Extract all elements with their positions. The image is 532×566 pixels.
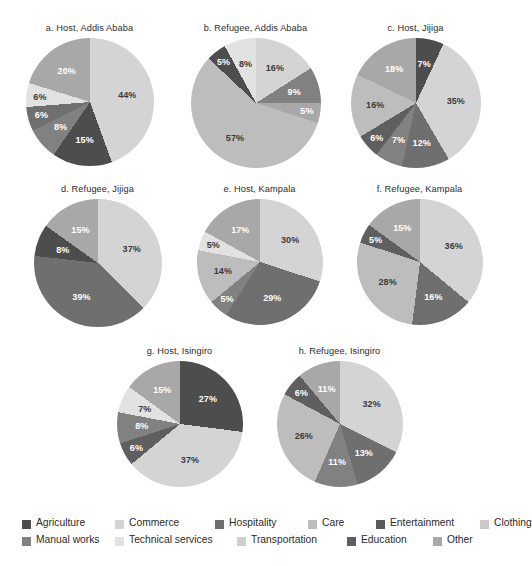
pie-chart-c: c. Host, Jijiga7%35%12%7%6%16%18% bbox=[332, 22, 499, 168]
slice-label-g-2: 37% bbox=[181, 455, 199, 465]
slice-label-f-5: 15% bbox=[393, 223, 411, 233]
slice-label-a-1: 44% bbox=[118, 90, 136, 100]
legend-item-manual-works[interactable]: Manual works bbox=[22, 531, 115, 548]
slice-label-c-6: 16% bbox=[366, 100, 384, 110]
slice-label-h-5: 6% bbox=[295, 388, 308, 398]
slice-label-d-1: 37% bbox=[123, 244, 141, 254]
slice-label-d-4: 15% bbox=[71, 225, 89, 235]
chart-title-c: c. Host, Jijiga bbox=[332, 22, 499, 34]
slice-label-g-5: 7% bbox=[138, 404, 151, 414]
pie-slices-b bbox=[191, 38, 321, 168]
slice-label-h-4: 26% bbox=[295, 431, 313, 441]
slice-label-c-2: 35% bbox=[447, 96, 465, 106]
legend-label-transportation: Transportation bbox=[251, 531, 317, 548]
pie-body-g: 27%37%6%8%7%15% bbox=[117, 361, 243, 487]
slice-label-g-1: 27% bbox=[199, 394, 217, 404]
chart-title-b: b. Refugee, Addis Ababa bbox=[172, 22, 339, 34]
legend-swatch-icon-hospitality bbox=[215, 520, 224, 529]
legend-item-education[interactable]: Education bbox=[347, 531, 433, 548]
legend-item-agriculture[interactable]: Agriculture bbox=[22, 514, 115, 531]
legend-label-other: Other bbox=[447, 531, 473, 548]
legend-swatch-icon-entertainment bbox=[376, 520, 385, 529]
pie-body-f: 36%16%28%5%15% bbox=[357, 199, 483, 325]
pie-body-h: 32%13%11%26%6%11% bbox=[277, 361, 403, 487]
pie-chart-e: e. Host, Kampala30%29%5%14%5%17% bbox=[176, 183, 343, 325]
pie-slices-a bbox=[26, 38, 154, 166]
slice-label-g-3: 6% bbox=[130, 443, 143, 453]
pie-body-b: 16%9%5%57%5%8% bbox=[191, 38, 321, 168]
chart-title-e: e. Host, Kampala bbox=[176, 183, 343, 195]
slice-label-c-1: 7% bbox=[418, 59, 431, 69]
slice-label-a-5: 6% bbox=[33, 92, 46, 102]
slice-label-a-6: 20% bbox=[58, 66, 76, 76]
slice-label-h-2: 13% bbox=[355, 448, 373, 458]
pie-slices-e bbox=[197, 199, 323, 325]
legend-label-hospitality: Hospitality bbox=[229, 514, 277, 531]
legend-label-agriculture: Agriculture bbox=[36, 514, 85, 531]
pie-chart-a: a. Host, Addis Ababa44%15%8%6%6%20% bbox=[6, 22, 173, 166]
slice-label-h-3: 11% bbox=[328, 457, 346, 467]
legend-item-care[interactable]: Care bbox=[308, 514, 376, 531]
legend-item-entertainment[interactable]: Entertainment bbox=[376, 514, 480, 531]
slice-label-f-3: 28% bbox=[378, 277, 396, 287]
slice-label-b-3: 5% bbox=[300, 106, 313, 116]
pie-body-c: 7%35%12%7%6%16%18% bbox=[351, 38, 481, 168]
slice-label-e-5: 5% bbox=[207, 240, 220, 250]
chart-title-a: a. Host, Addis Ababa bbox=[6, 22, 173, 34]
pie-body-d: 37%39%8%15% bbox=[34, 199, 162, 327]
legend-row-2: Manual worksTechnical servicesTransporta… bbox=[22, 531, 484, 548]
legend-swatch-icon-agriculture bbox=[22, 520, 31, 529]
chart-title-g: g. Host, Isingiro bbox=[96, 345, 263, 357]
slice-label-d-3: 8% bbox=[56, 245, 69, 255]
slice-label-a-3: 8% bbox=[54, 122, 67, 132]
slice-label-b-1: 16% bbox=[266, 63, 284, 73]
legend-label-entertainment: Entertainment bbox=[390, 514, 454, 531]
legend-item-commerce[interactable]: Commerce bbox=[115, 514, 215, 531]
slice-label-e-3: 5% bbox=[220, 294, 233, 304]
slice-label-a-4: 6% bbox=[35, 110, 48, 120]
pie-body-a: 44%15%8%6%6%20% bbox=[26, 38, 154, 166]
slice-label-a-2: 15% bbox=[75, 135, 93, 145]
slice-label-e-2: 29% bbox=[263, 293, 281, 303]
slice-label-e-4: 14% bbox=[214, 266, 232, 276]
slice-label-c-5: 6% bbox=[370, 133, 383, 143]
legend-label-care: Care bbox=[322, 514, 344, 531]
chart-title-h: h. Refugee, Isingiro bbox=[256, 345, 423, 357]
legend-swatch-icon-manual-works bbox=[22, 537, 31, 546]
legend-swatch-icon-clothing bbox=[480, 520, 489, 529]
pie-chart-h: h. Refugee, Isingiro32%13%11%26%6%11% bbox=[256, 345, 423, 487]
pie-chart-f: f. Refugee, Kampala36%16%28%5%15% bbox=[336, 183, 503, 325]
pie-chart-g: g. Host, Isingiro27%37%6%8%7%15% bbox=[96, 345, 263, 487]
legend-swatch-icon-commerce bbox=[115, 520, 124, 529]
slice-label-c-4: 7% bbox=[392, 135, 405, 145]
slice-label-h-6: 11% bbox=[318, 384, 336, 394]
pie-slices-h bbox=[277, 361, 403, 487]
pie-chart-d: d. Refugee, Jijiga37%39%8%15% bbox=[14, 183, 181, 327]
legend-label-manual-works: Manual works bbox=[36, 531, 100, 548]
legend-swatch-icon-education bbox=[347, 537, 356, 546]
legend-item-other[interactable]: Other bbox=[433, 531, 473, 548]
slice-label-f-4: 5% bbox=[369, 235, 382, 245]
legend-label-education: Education bbox=[361, 531, 407, 548]
slice-label-e-6: 17% bbox=[231, 225, 249, 235]
slice-label-b-2: 9% bbox=[288, 87, 301, 97]
pie-slices-f bbox=[357, 199, 483, 325]
legend-item-clothing[interactable]: Clothing bbox=[480, 514, 532, 531]
legend-swatch-icon-technical-services bbox=[115, 537, 124, 546]
slice-label-h-1: 32% bbox=[362, 399, 380, 409]
legend-item-technical-services[interactable]: Technical services bbox=[115, 531, 237, 548]
slice-label-d-2: 39% bbox=[72, 292, 90, 302]
legend-item-transportation[interactable]: Transportation bbox=[237, 531, 347, 548]
legend-label-commerce: Commerce bbox=[129, 514, 179, 531]
slice-label-c-7: 18% bbox=[385, 64, 403, 74]
slice-label-g-4: 8% bbox=[135, 421, 148, 431]
slice-label-b-5: 5% bbox=[217, 57, 230, 67]
slice-label-e-1: 30% bbox=[281, 235, 299, 245]
legend-row-1: AgricultureCommerceHospitalityCareEntert… bbox=[22, 514, 484, 531]
slice-label-b-4: 57% bbox=[226, 133, 244, 143]
legend-swatch-icon-care bbox=[308, 520, 317, 529]
legend-item-hospitality[interactable]: Hospitality bbox=[215, 514, 308, 531]
slice-label-g-6: 15% bbox=[153, 385, 171, 395]
slice-label-f-1: 36% bbox=[445, 241, 463, 251]
